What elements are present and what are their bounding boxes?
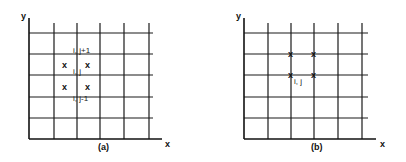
marker-a-1: x bbox=[62, 60, 67, 70]
node-label-i-j-minus-1: i, j-1 bbox=[73, 94, 89, 103]
grid-b-verticals bbox=[268, 23, 362, 139]
caption-a: (a) bbox=[98, 142, 109, 152]
marker-b-1: x bbox=[288, 49, 293, 59]
marker-b-2: x bbox=[311, 49, 316, 59]
marker-a-2: x bbox=[85, 60, 90, 70]
node-label-i-j: i, j bbox=[73, 67, 81, 76]
marker-a-4: x bbox=[85, 82, 90, 92]
diagram-canvas: y x i, j+1 i, j i, j-1 x x x x (a) y bbox=[0, 0, 406, 162]
y-axis-label-b: y bbox=[236, 11, 241, 21]
x-axis-label-b: x bbox=[380, 139, 385, 149]
node-label-b-i-j: i, j bbox=[294, 77, 302, 86]
grid-a-verticals bbox=[54, 23, 149, 139]
node-label-i-j-plus-1: i, j+1 bbox=[73, 46, 91, 55]
grid-b-horizontals bbox=[244, 33, 368, 118]
panel-b: y x x x x x i, j (b) bbox=[236, 11, 385, 152]
caption-b: (b) bbox=[311, 142, 323, 152]
marker-b-3: x bbox=[288, 70, 293, 80]
marker-a-3: x bbox=[62, 82, 67, 92]
grid-a-horizontals bbox=[29, 33, 153, 118]
x-axis-label-a: x bbox=[165, 139, 170, 149]
marker-b-4: x bbox=[311, 70, 316, 80]
y-axis-label-a: y bbox=[21, 11, 26, 21]
panel-a: y x i, j+1 i, j i, j-1 x x x x (a) bbox=[21, 11, 170, 152]
